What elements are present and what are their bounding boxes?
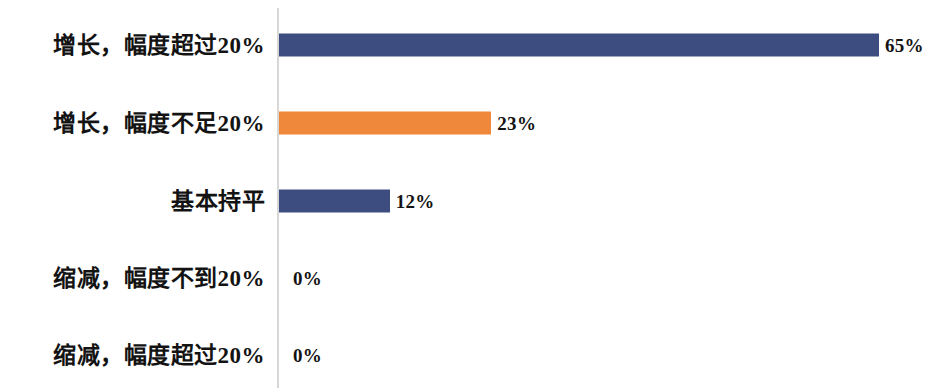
category-label-3: 缩减，幅度不到20% xyxy=(0,267,265,290)
bar-1 xyxy=(279,112,491,135)
plot-area: 65% 23% 12% 0% 0% xyxy=(279,0,926,388)
value-label-4: 0% xyxy=(293,346,322,365)
category-label-4: 缩减，幅度超过20% xyxy=(0,344,265,367)
category-label-0: 增长，幅度超过20% xyxy=(0,34,265,57)
bar-chart: 增长，幅度超过20% 增长，幅度不足20% 基本持平 缩减，幅度不到20% 缩减… xyxy=(0,0,926,388)
category-label-1: 增长，幅度不足20% xyxy=(0,112,265,135)
value-label-3: 0% xyxy=(293,269,322,288)
value-label-1: 23% xyxy=(497,114,536,133)
value-label-2: 12% xyxy=(396,192,435,211)
category-label-2: 基本持平 xyxy=(0,190,265,213)
bar-0 xyxy=(279,34,879,57)
value-label-0: 65% xyxy=(885,36,924,55)
bar-2 xyxy=(279,190,390,213)
